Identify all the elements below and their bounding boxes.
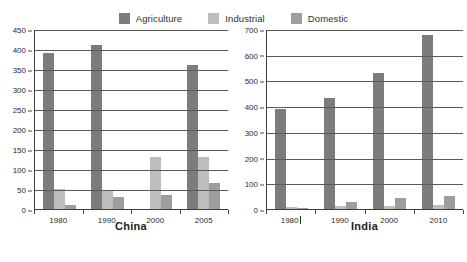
x-tick-mark: [180, 210, 181, 214]
gridline: [35, 150, 228, 151]
gridline: [267, 159, 463, 160]
gridline: [35, 30, 228, 31]
y-tick-label: 0: [22, 206, 26, 215]
x-tick-mark: [365, 210, 366, 214]
bar-industrial: [286, 207, 297, 209]
legend-label-industrial: Industrial: [225, 13, 265, 24]
legend-swatch-industrial: [208, 13, 219, 24]
x-axis-labels-india: 1980199020002010: [266, 216, 463, 225]
x-tick-mark: [315, 210, 316, 214]
y-tick-label: 150: [13, 146, 26, 155]
y-tick-label: 200: [245, 154, 258, 163]
bar-industrial: [335, 206, 346, 209]
gridline: [35, 170, 228, 171]
plot-area-china: [34, 30, 228, 210]
bar-industrial: [102, 190, 113, 209]
bar-domestic: [395, 198, 406, 209]
x-tick-marks-china: [34, 210, 228, 215]
bars-layer-india: [267, 30, 463, 209]
bar-group: [324, 30, 357, 209]
y-tick-label: 400: [13, 46, 26, 55]
y-tick-label: 200: [13, 126, 26, 135]
bar-domestic: [161, 195, 172, 209]
bar-domestic: [297, 208, 308, 209]
bars-layer-china: [35, 30, 228, 209]
bar-group: [91, 30, 124, 209]
y-axis-china: 050100150200250300350400450: [4, 30, 32, 210]
bar-group: [275, 30, 308, 209]
x-axis-label: 1990: [318, 216, 362, 225]
legend-label-agriculture: Agriculture: [136, 13, 183, 24]
bar-domestic: [209, 183, 220, 209]
x-axis-label: 2000: [133, 216, 177, 225]
gridline: [267, 184, 463, 185]
gridline: [267, 81, 463, 82]
x-axis-label: 1980: [36, 216, 80, 225]
text-cursor: [300, 216, 301, 224]
x-tick-marks-india: [266, 210, 463, 215]
bar-domestic: [113, 197, 124, 209]
bar-agriculture: [43, 53, 54, 209]
y-tick-label: 500: [245, 77, 258, 86]
bar-industrial: [198, 157, 209, 209]
charts-container: 050100150200250300350400450 198019902000…: [0, 30, 467, 262]
x-axis-label: 1980: [269, 216, 313, 225]
x-axis-label: 2010: [416, 216, 460, 225]
bar-agriculture: [324, 98, 335, 209]
legend-swatch-domestic: [291, 13, 302, 24]
gridline: [35, 70, 228, 71]
y-tick-label: 100: [13, 166, 26, 175]
gridline: [35, 190, 228, 191]
x-tick-mark: [463, 210, 464, 214]
bar-industrial: [150, 157, 161, 209]
gridline: [267, 56, 463, 57]
gridline: [35, 50, 228, 51]
bar-industrial: [384, 206, 395, 209]
legend-swatch-agriculture: [119, 13, 130, 24]
chart-panel-china: 050100150200250300350400450 198019902000…: [0, 30, 232, 232]
y-tick-label: 350: [13, 66, 26, 75]
bar-agriculture: [422, 35, 433, 209]
bar-industrial: [54, 189, 65, 209]
bar-group: [422, 30, 455, 209]
x-axis-label: 1990: [85, 216, 129, 225]
gridline: [267, 107, 463, 108]
y-tick-label: 50: [17, 186, 26, 195]
bar-domestic: [346, 202, 357, 209]
x-axis-india: 1980199020002010: [266, 210, 463, 226]
bar-group: [43, 30, 76, 209]
x-tick-mark: [131, 210, 132, 214]
y-tick-label: 100: [245, 180, 258, 189]
legend-item-domestic: Domestic: [291, 13, 348, 24]
y-tick-label: 250: [13, 106, 26, 115]
bar-industrial: [433, 205, 444, 209]
x-axis-china: 1980199020002005: [34, 210, 228, 226]
bar-domestic: [444, 196, 455, 209]
chart-legend: Agriculture Industrial Domestic: [0, 0, 467, 30]
x-axis-label: 2005: [182, 216, 226, 225]
x-tick-mark: [414, 210, 415, 214]
gridline: [35, 130, 228, 131]
gridline: [35, 110, 228, 111]
plot-area-india: [266, 30, 463, 210]
legend-item-agriculture: Agriculture: [119, 13, 183, 24]
bar-agriculture: [373, 73, 384, 209]
y-tick-label: 0: [254, 206, 258, 215]
x-tick-mark: [266, 210, 267, 214]
gridline: [267, 133, 463, 134]
bar-agriculture: [187, 65, 198, 209]
plot-wrapper-china: 050100150200250300350400450 198019902000…: [4, 30, 232, 210]
y-tick-label: 300: [245, 128, 258, 137]
x-axis-labels-china: 1980199020002005: [34, 216, 228, 225]
y-axis-india: 0100200300400500600700: [236, 30, 264, 210]
bar-domestic: [65, 205, 76, 209]
legend-item-industrial: Industrial: [208, 13, 265, 24]
y-tick-label: 600: [245, 51, 258, 60]
x-tick-mark: [83, 210, 84, 214]
gridline: [267, 30, 463, 31]
x-axis-label: 2000: [367, 216, 411, 225]
chart-panel-india: 0100200300400500600700 1980199020002010 …: [232, 30, 467, 232]
plot-wrapper-india: 0100200300400500600700 1980199020002010: [236, 30, 467, 210]
y-tick-label: 700: [245, 26, 258, 35]
y-tick-label: 300: [13, 86, 26, 95]
